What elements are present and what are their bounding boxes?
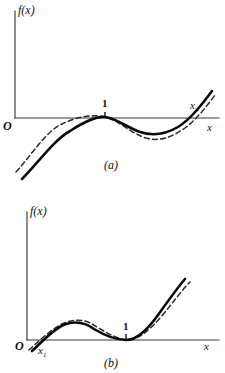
panel-b-origin-label: O — [15, 340, 24, 352]
panel-b-root-label-subscript: 1 — [43, 351, 47, 359]
panel-b-root-label: x1 — [38, 345, 46, 359]
panel-a-tangency-label: 1 — [102, 98, 108, 109]
panel-a: f(x) x O 1 x3 (a) — [0, 0, 225, 188]
panel-a-root-label-subscript: 3 — [195, 106, 199, 114]
panel-a-root-label: x3 — [190, 100, 198, 114]
panel-b-caption: (b) — [104, 357, 118, 369]
panel-a-x-axis-label: x — [207, 122, 212, 133]
panel-a-caption: (a) — [104, 159, 118, 171]
panel-b-y-axis-label: f(x) — [30, 205, 47, 217]
panel-b-tangency-label: 1 — [123, 321, 129, 332]
figure-container: f(x) x O 1 x3 (a) f(x) x O x1 1 (b) — [0, 0, 225, 373]
panel-b: f(x) x O x1 1 (b) — [0, 185, 225, 373]
panel-a-y-axis-label: f(x) — [18, 4, 35, 16]
panel-b-x-axis-label: x — [204, 341, 209, 352]
panel-a-origin-label: O — [3, 120, 12, 132]
